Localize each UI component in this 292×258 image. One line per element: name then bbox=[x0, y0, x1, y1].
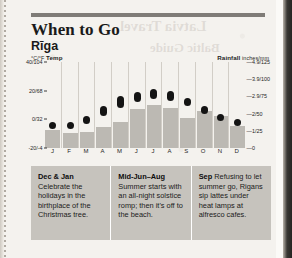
rainfall-axis-name: Rainfall bbox=[217, 54, 240, 61]
temp-axis-tick-label: -20/-4 bbox=[28, 145, 44, 151]
temperature-range-marker bbox=[83, 116, 90, 123]
page-right-edge-shadow bbox=[283, 0, 292, 258]
rainfall-bar bbox=[147, 105, 162, 148]
temperature-range-marker bbox=[201, 106, 208, 113]
season-note: Mid-Jun–AugSummer starts with an all-nig… bbox=[110, 166, 190, 240]
month-label: A bbox=[101, 148, 105, 154]
temperature-range-marker bbox=[134, 92, 141, 102]
temp-axis-tick-label: 0/32 bbox=[32, 116, 44, 122]
page-cut-dots bbox=[4, 0, 6, 258]
temp-axis-tick-label: 40/104 bbox=[26, 59, 44, 65]
month-column bbox=[61, 62, 79, 148]
plot-area: 40/10420/680/32-20/-4—4.9/125—3.9/100—2.… bbox=[44, 62, 245, 148]
temperature-range-marker bbox=[184, 98, 191, 107]
month-column bbox=[195, 62, 213, 148]
temp-axis-name: Temp bbox=[46, 54, 62, 61]
rainfall-bar bbox=[45, 130, 60, 148]
rainfall-bar bbox=[214, 116, 229, 148]
rainfall-bar bbox=[63, 133, 78, 148]
temp-axis-tick-mark bbox=[44, 119, 47, 120]
month-axis: JFMAMJJASOND bbox=[44, 148, 245, 158]
month-label: J bbox=[135, 148, 138, 154]
month-column bbox=[178, 62, 196, 148]
temp-axis-tick-mark bbox=[44, 90, 47, 91]
month-label: M bbox=[83, 148, 88, 154]
temperature-range-marker bbox=[49, 122, 56, 129]
month-label: J bbox=[151, 148, 154, 154]
temperature-range-marker bbox=[150, 89, 157, 99]
month-column bbox=[212, 62, 230, 148]
temperature-range-marker bbox=[167, 91, 174, 101]
rainfall-axis-tick-label: —3.9/100 bbox=[245, 76, 270, 82]
rainfall-axis-tick-label: —0 bbox=[245, 145, 255, 151]
month-column bbox=[111, 62, 129, 148]
month-column bbox=[161, 62, 179, 148]
season-note-heading: Dec & Jan bbox=[38, 172, 103, 182]
header-rule bbox=[31, 13, 265, 17]
month-label: J bbox=[51, 148, 54, 154]
season-note: Sep Refusing to let summer go, Rigans si… bbox=[191, 166, 271, 240]
month-column bbox=[94, 62, 112, 148]
rainfall-bar bbox=[130, 109, 145, 148]
temp-axis-tick-mark bbox=[44, 62, 47, 63]
page-title: When to Go bbox=[31, 20, 120, 40]
month-column bbox=[44, 62, 61, 148]
rainfall-axis-tick-label: —4.9/125 bbox=[245, 59, 270, 65]
rainfall-axis-tick-label: —2/50 bbox=[245, 111, 262, 117]
temperature-range-marker bbox=[100, 106, 107, 116]
month-column bbox=[145, 62, 163, 148]
month-column bbox=[228, 62, 246, 148]
temperature-range-marker bbox=[217, 114, 224, 121]
rainfall-bar bbox=[180, 118, 195, 148]
seasonal-notes: Dec & JanCelebrate the holidays in the b… bbox=[31, 166, 271, 240]
temp-axis-tick-label: 20/68 bbox=[29, 88, 44, 94]
climate-chart: 40/10420/680/32-20/-4—4.9/125—3.9/100—2.… bbox=[31, 62, 265, 148]
rainfall-bar bbox=[113, 122, 128, 148]
page-right-margin bbox=[276, 0, 283, 258]
season-note-text: Celebrate the holidays in the birthplace… bbox=[38, 182, 91, 220]
rainfall-bar bbox=[163, 108, 178, 148]
infographic: When to Go Rīga °C/°F Temp Rainfall inch… bbox=[10, 0, 272, 258]
rainfall-bar bbox=[230, 126, 245, 148]
season-note-text: Summer starts with an all-night solstice… bbox=[118, 182, 183, 220]
rainfall-axis-tick-label: —2.9/75 bbox=[245, 93, 267, 99]
rainfall-bar bbox=[96, 127, 111, 148]
month-column bbox=[128, 62, 146, 148]
month-label: O bbox=[201, 148, 206, 154]
rainfall-axis-tick-label: —1/25 bbox=[245, 128, 262, 134]
month-label: S bbox=[184, 148, 188, 154]
rainfall-bar bbox=[197, 111, 212, 148]
season-note-heading: Mid-Jun–Aug bbox=[118, 172, 183, 182]
month-label: N bbox=[218, 148, 222, 154]
season-note: Dec & JanCelebrate the holidays in the b… bbox=[31, 166, 110, 240]
month-label: M bbox=[117, 148, 122, 154]
temperature-range-marker bbox=[117, 96, 124, 107]
rainfall-bar bbox=[80, 132, 95, 149]
month-label: A bbox=[168, 148, 172, 154]
city-subtitle: Rīga bbox=[31, 39, 58, 53]
month-label: D bbox=[234, 148, 238, 154]
season-note-heading: Sep bbox=[199, 172, 213, 181]
month-column bbox=[78, 62, 96, 148]
temperature-range-marker bbox=[67, 122, 74, 129]
month-label: F bbox=[67, 148, 71, 154]
